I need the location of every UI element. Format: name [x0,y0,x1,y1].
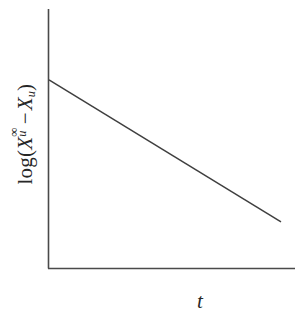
data-series-line [49,80,281,222]
figure-container: log(X∞u−Xu) t [0,0,298,326]
plot-canvas [0,0,298,326]
